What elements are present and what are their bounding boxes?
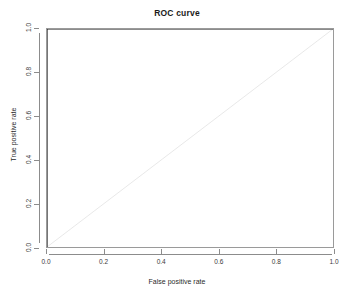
y-axis-tick	[34, 160, 39, 161]
x-axis-tick-label: 0.2	[89, 258, 119, 265]
plot-svg	[47, 29, 333, 247]
x-axis-tick	[46, 249, 47, 254]
y-axis-line	[39, 33, 40, 243]
plot-area	[46, 28, 334, 248]
x-axis-tick-label: 1.0	[319, 258, 349, 265]
y-axis-tick-label: 0.6	[25, 110, 32, 122]
y-axis-tick	[34, 116, 39, 117]
x-axis-tick-label: 0.0	[31, 258, 61, 265]
x-axis-tick	[334, 249, 335, 254]
y-axis-tick-label: 0.8	[25, 66, 32, 78]
y-axis-tick-label: 0.2	[25, 198, 32, 210]
x-axis-title: False positive rate	[0, 278, 354, 285]
y-axis-tick	[34, 248, 39, 249]
x-axis-tick-label: 0.8	[261, 258, 291, 265]
y-axis-tick-label: 0.4	[25, 154, 32, 166]
x-axis-tick-label: 0.6	[204, 258, 234, 265]
y-axis-title: True positive rate	[10, 75, 17, 195]
x-axis-tick	[104, 249, 105, 254]
x-axis-tick-label: 0.4	[146, 258, 176, 265]
x-axis-line	[49, 254, 332, 255]
chart-title: ROC curve	[0, 8, 354, 18]
roc-curve-figure: ROC curve 0.00.20.40.60.81.0 0.00.20.40.…	[0, 0, 354, 299]
y-axis-tick-label: 1.0	[25, 22, 32, 34]
y-axis-tick	[34, 28, 39, 29]
chance-diagonal-line	[47, 29, 333, 247]
x-axis-tick	[161, 249, 162, 254]
y-axis-tick	[34, 72, 39, 73]
y-axis-tick	[34, 204, 39, 205]
x-axis-tick	[276, 249, 277, 254]
y-axis-tick-label: 0.0	[25, 242, 32, 254]
x-axis-tick	[219, 249, 220, 254]
